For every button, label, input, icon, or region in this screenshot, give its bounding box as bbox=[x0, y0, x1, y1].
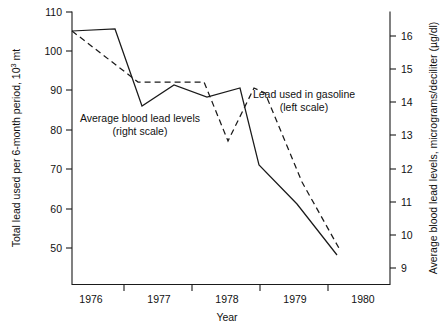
left-axis-tick-labels: 110 100 90 80 70 60 50 bbox=[44, 6, 62, 254]
right-tick-label-14: 14 bbox=[401, 96, 413, 108]
right-tick-label-12: 12 bbox=[401, 163, 413, 175]
x-tick-label-1977: 1977 bbox=[147, 293, 171, 305]
series-line-average-blood-lead-levels bbox=[72, 31, 340, 250]
gasoline-annotation-line2: (left scale) bbox=[280, 101, 328, 113]
left-tick-label-50: 50 bbox=[50, 242, 62, 254]
right-tick-label-16: 16 bbox=[401, 30, 413, 42]
right-tick-label-9: 9 bbox=[401, 262, 407, 274]
left-tick-label-80: 80 bbox=[50, 124, 62, 136]
x-tick-label-1978: 1978 bbox=[215, 293, 239, 305]
x-tick-label-1979: 1979 bbox=[283, 293, 307, 305]
left-tick-label-90: 90 bbox=[50, 84, 62, 96]
blood-lead-annotation-line1: Average blood lead levels bbox=[80, 112, 200, 124]
y-axis-title-left: Total lead used per 6-month period, 103 … bbox=[9, 49, 22, 248]
right-axis-tick-labels: 16 15 14 13 12 11 10 9 bbox=[401, 30, 413, 274]
left-tick-label-60: 60 bbox=[50, 203, 62, 215]
series-line-lead-used-in-gasoline bbox=[72, 29, 337, 255]
right-tick-label-15: 15 bbox=[401, 63, 413, 75]
left-tick-label-110: 110 bbox=[45, 6, 62, 18]
x-axis-title: Year bbox=[216, 311, 238, 323]
x-tick-label-1976: 1976 bbox=[79, 293, 103, 305]
left-tick-label-100: 100 bbox=[44, 45, 62, 57]
y-axis-title-left-post: mt bbox=[10, 49, 22, 64]
right-tick-label-13: 13 bbox=[401, 129, 413, 141]
plot-axes-frame bbox=[72, 12, 390, 285]
lead-usage-vs-blood-lead-line-chart: 110 100 90 80 70 60 50 16 15 14 13 12 11 bbox=[0, 0, 448, 328]
right-tick-label-10: 10 bbox=[401, 229, 413, 241]
right-tick-label-11: 11 bbox=[401, 196, 412, 208]
left-tick-label-70: 70 bbox=[50, 163, 62, 175]
right-axis-ticks bbox=[390, 36, 396, 268]
chart-figure: 110 100 90 80 70 60 50 16 15 14 13 12 11 bbox=[0, 0, 448, 328]
gasoline-annotation-line1: Lead used in gasoline bbox=[253, 88, 355, 100]
x-tick-label-1980: 1980 bbox=[351, 293, 375, 305]
y-axis-title-left-pre: Total lead used per 6-month period, 10 bbox=[10, 67, 22, 247]
blood-lead-annotation: Average blood lead levels (right scale) bbox=[80, 112, 200, 137]
blood-lead-annotation-line2: (right scale) bbox=[113, 125, 168, 137]
y-axis-title-right: Average blood lead levels, micrograms/de… bbox=[427, 22, 439, 275]
x-axis-tick-labels: 1976 1977 1978 1979 1980 bbox=[79, 293, 375, 305]
left-axis-ticks bbox=[66, 12, 72, 248]
